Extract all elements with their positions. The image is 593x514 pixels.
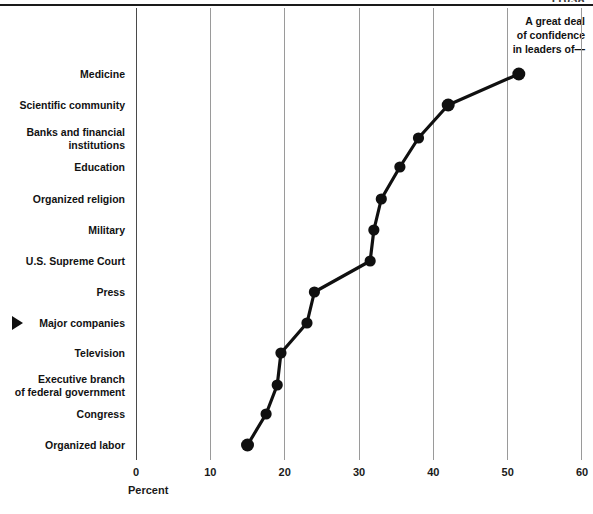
category-label: U.S. Supreme Court bbox=[0, 255, 125, 268]
y-axis-line bbox=[136, 8, 137, 460]
triangle-right-marker-icon bbox=[12, 316, 23, 330]
gridline-50 bbox=[507, 8, 508, 460]
x-tick-label: 50 bbox=[502, 466, 514, 478]
category-label: Medicine bbox=[0, 68, 125, 81]
category-label: Executive branch of federal government bbox=[0, 373, 125, 398]
chart-root: 11038 A great deal of confidence in lead… bbox=[0, 0, 593, 514]
gridline-30 bbox=[359, 8, 360, 460]
x-tick-label: 60 bbox=[576, 466, 588, 478]
category-label: Organized religion bbox=[0, 193, 125, 206]
gridline-40 bbox=[433, 8, 434, 460]
x-tick-label: 30 bbox=[353, 466, 365, 478]
x-tick-label: 0 bbox=[133, 466, 139, 478]
gridline-20 bbox=[284, 8, 285, 460]
category-label: Press bbox=[0, 286, 125, 299]
x-tick-label: 40 bbox=[427, 466, 439, 478]
category-label: Banks and financial institutions bbox=[0, 126, 125, 151]
x-tick-label: 20 bbox=[279, 466, 291, 478]
category-label: Congress bbox=[0, 408, 125, 421]
category-label: Education bbox=[0, 161, 125, 174]
category-label: Military bbox=[0, 224, 125, 237]
figure-tag: 11038 bbox=[550, 0, 585, 2]
gridline-60 bbox=[581, 8, 582, 460]
x-tick-label: 10 bbox=[204, 466, 216, 478]
plot-area bbox=[136, 8, 582, 460]
category-label: Television bbox=[0, 347, 125, 360]
category-label: Scientific community bbox=[0, 99, 125, 112]
x-axis-tick-labels: 0102030405060 bbox=[0, 466, 593, 486]
x-axis-title: Percent bbox=[128, 484, 168, 496]
gridline-10 bbox=[210, 8, 211, 460]
category-label-column: MedicineScientific communityBanks and fi… bbox=[0, 0, 133, 514]
category-label: Organized labor bbox=[0, 439, 125, 452]
